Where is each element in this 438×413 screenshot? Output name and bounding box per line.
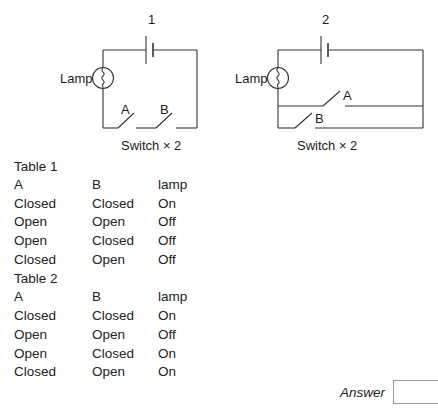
truth-tables: Table 1 A B lamp Closed Closed On Open O… [14, 157, 218, 382]
table-1: Table 1 A B lamp Closed Closed On Open O… [14, 157, 218, 269]
circuit-2-number: 2 [322, 12, 329, 27]
circuit-1-switch-b-label: B [160, 102, 169, 117]
column-header: B [92, 288, 158, 307]
circuit-2-lamp-label: Lamp [235, 71, 268, 86]
table-cell: Open [92, 326, 158, 345]
table-cell: On [158, 307, 218, 326]
table-cell: Closed [92, 307, 158, 326]
table-header-row: A B lamp [14, 288, 218, 307]
battery-icon [146, 36, 153, 64]
table-cell: Open [92, 251, 158, 270]
circuit-2-switch-b-label: B [315, 111, 324, 126]
table-cell: Open [92, 363, 158, 382]
table-cell: On [158, 195, 218, 214]
table-cell: Closed [14, 363, 92, 382]
table-header-row: A B lamp [14, 176, 218, 195]
table-cell: Closed [92, 195, 158, 214]
circuit-1-lamp-label: Lamp [60, 71, 93, 86]
circuit-2-switch-a-label: A [343, 88, 352, 103]
answer-label: Answer [340, 385, 385, 400]
circuit-2-caption: Switch × 2 [297, 138, 357, 153]
table-cell: Closed [14, 195, 92, 214]
lamp-icon [268, 68, 289, 89]
table-cell: Off [158, 251, 218, 270]
table-row: Open Open Off [14, 326, 218, 345]
column-header: A [14, 176, 92, 195]
table-2: Table 2 A B lamp Closed Closed On Open O… [14, 269, 218, 381]
table-title: Table 1 [14, 157, 218, 176]
column-header: lamp [158, 176, 218, 195]
table-cell: Open [14, 326, 92, 345]
table-cell: Open [14, 232, 92, 251]
table-cell: Off [158, 326, 218, 345]
table-cell: Off [158, 213, 218, 232]
answer-input[interactable] [393, 380, 438, 404]
circuit-1-caption: Switch × 2 [121, 138, 181, 153]
table-row: Closed Closed On [14, 195, 218, 214]
column-header: B [92, 176, 158, 195]
lamp-icon [93, 68, 114, 89]
table-cell: On [158, 345, 218, 364]
column-header: A [14, 288, 92, 307]
circuit-diagrams: 1 Lamp A B Switch × 2 2 Lamp A B Switch … [0, 0, 438, 160]
switch-b-icon [295, 113, 312, 128]
circuit-1 [93, 36, 198, 128]
circuit-1-number: 1 [148, 12, 155, 27]
circuit-2 [268, 36, 424, 128]
table-cell: Closed [14, 251, 92, 270]
battery-icon [321, 36, 328, 64]
table-cell: Off [158, 232, 218, 251]
table-row: Open Closed Off [14, 232, 218, 251]
table-cell: Closed [14, 307, 92, 326]
answer-area: Answer [340, 380, 438, 404]
table-cell: Open [14, 213, 92, 232]
table-row: Closed Closed On [14, 307, 218, 326]
table-cell: Closed [92, 232, 158, 251]
switch-a-icon [323, 91, 340, 106]
table-row: Open Open Off [14, 213, 218, 232]
table-cell: On [158, 363, 218, 382]
table-cell: Closed [92, 345, 158, 364]
table-title: Table 2 [14, 269, 218, 288]
table-cell: Open [92, 213, 158, 232]
table-row: Closed Open Off [14, 251, 218, 270]
circuit-1-switch-a-label: A [121, 102, 130, 117]
table-cell: Open [14, 345, 92, 364]
table-row: Closed Open On [14, 363, 218, 382]
table-row: Open Closed On [14, 345, 218, 364]
column-header: lamp [158, 288, 218, 307]
